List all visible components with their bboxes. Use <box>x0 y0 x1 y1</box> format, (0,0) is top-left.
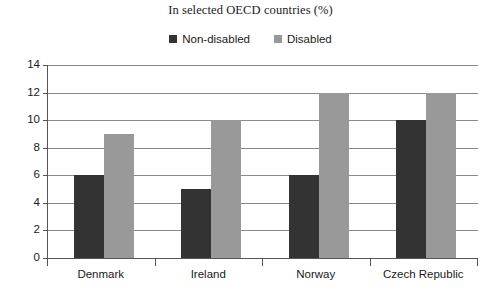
bar-norway-disabled <box>319 93 349 258</box>
y-axis-tick-label: 12 <box>6 87 40 99</box>
x-axis-tick-labels: DenmarkIrelandNorwayCzech Republic <box>47 268 477 288</box>
legend-label-non-disabled: Non-disabled <box>182 33 250 45</box>
legend-entry-non-disabled: Non-disabled <box>169 33 250 45</box>
y-axis-tick-label: 10 <box>6 114 40 126</box>
x-axis-label-norway: Norway <box>262 268 370 280</box>
x-axis-label-czech-republic: Czech Republic <box>370 268 478 280</box>
legend-label-disabled: Disabled <box>287 33 332 45</box>
y-axis-tick-label: 14 <box>6 59 40 71</box>
plot-area <box>47 65 478 259</box>
y-axis-tick-label: 2 <box>6 224 40 236</box>
bar-norway-non-disabled <box>289 175 319 258</box>
y-axis-tick-labels: 02468101214 <box>0 65 40 258</box>
bar-series-container <box>48 65 478 258</box>
x-axis-tick-mark <box>262 259 263 266</box>
x-axis-tick-marks <box>47 259 478 267</box>
bar-ireland-non-disabled <box>181 189 211 258</box>
y-axis-tick-label: 6 <box>6 169 40 181</box>
bar-chart-figure: In selected OECD countries (%) Non-disab… <box>0 0 501 297</box>
y-axis-tick-label: 8 <box>6 142 40 154</box>
x-axis-tick-mark <box>477 259 478 266</box>
chart-title: In selected OECD countries (%) <box>0 3 501 18</box>
legend-swatch-disabled-icon <box>274 35 282 43</box>
bar-denmark-non-disabled <box>74 175 104 258</box>
legend-entry-disabled: Disabled <box>274 33 332 45</box>
x-axis-tick-mark <box>47 259 48 266</box>
x-axis-tick-mark <box>155 259 156 266</box>
bar-czech-republic-non-disabled <box>396 120 426 258</box>
x-axis-label-ireland: Ireland <box>155 268 263 280</box>
legend-swatch-non-disabled-icon <box>169 35 177 43</box>
bar-czech-republic-disabled <box>426 93 456 258</box>
bar-denmark-disabled <box>104 134 134 258</box>
chart-legend: Non-disabled Disabled <box>0 33 501 45</box>
y-axis-tick-label: 0 <box>6 252 40 264</box>
y-axis-tick-label: 4 <box>6 197 40 209</box>
x-axis-label-denmark: Denmark <box>47 268 155 280</box>
x-axis-tick-mark <box>370 259 371 266</box>
bar-ireland-disabled <box>211 120 241 258</box>
